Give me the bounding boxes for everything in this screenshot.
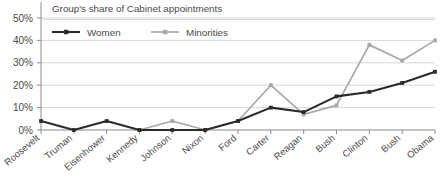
data-point-minorities bbox=[400, 59, 404, 63]
data-point-women bbox=[400, 81, 404, 85]
data-point-women bbox=[39, 119, 43, 123]
data-point-women bbox=[302, 110, 306, 114]
x-tick-label: Bush bbox=[379, 132, 403, 154]
x-tick-label: Nixon bbox=[180, 132, 206, 156]
legend-label: Women bbox=[87, 27, 121, 38]
x-tick-label: Obama bbox=[404, 132, 435, 161]
x-tick-label: Kennedy bbox=[104, 132, 140, 165]
data-point-women bbox=[203, 128, 207, 132]
data-point-women bbox=[170, 128, 174, 132]
x-tick-label: Johnson bbox=[138, 132, 173, 164]
chart-title-text: Group's share of Cabinet appointments bbox=[52, 3, 222, 14]
y-tick-label: 10% bbox=[13, 102, 33, 113]
x-tick-label: Carter bbox=[244, 132, 271, 157]
chart-legend: WomenMinorities bbox=[52, 27, 228, 38]
x-tick-label: Ford bbox=[216, 132, 238, 153]
x-tick-label: Reagan bbox=[271, 132, 304, 162]
data-point-minorities bbox=[433, 39, 437, 43]
data-point-women bbox=[269, 106, 273, 110]
data-point-women bbox=[72, 128, 76, 132]
x-tick-label: Roosevelt bbox=[2, 132, 42, 168]
line-chart: 0%10%20%30%40%50% RooseveltTrumanEisenho… bbox=[0, 0, 440, 187]
x-axis-tick-labels: RooseveltTrumanEisenhowerKennedyJohnsonN… bbox=[2, 132, 436, 173]
data-point-minorities bbox=[367, 43, 371, 47]
chart-container: 0%10%20%30%40%50% RooseveltTrumanEisenho… bbox=[0, 0, 440, 187]
y-axis-tick-labels: 0%10%20%30%40%50% bbox=[13, 13, 41, 136]
legend-item-women[interactable]: Women bbox=[52, 27, 121, 38]
x-tick-label: Bush bbox=[313, 132, 337, 154]
data-point-women bbox=[335, 95, 339, 99]
data-point-women bbox=[433, 70, 437, 74]
y-tick-label: 20% bbox=[13, 80, 33, 91]
legend-label: Minorities bbox=[186, 27, 228, 38]
data-point-women bbox=[105, 119, 109, 123]
y-tick-label: 30% bbox=[13, 57, 33, 68]
x-tick-label: Clinton bbox=[340, 132, 370, 159]
data-point-women bbox=[367, 90, 371, 94]
data-point-minorities bbox=[335, 103, 339, 107]
data-point-minorities bbox=[269, 83, 273, 87]
chart-title: Group's share of Cabinet appointments bbox=[41, 3, 435, 20]
data-point-minorities bbox=[170, 119, 174, 123]
data-point-women bbox=[138, 128, 142, 132]
data-point-women bbox=[236, 119, 240, 123]
y-tick-label: 40% bbox=[13, 35, 33, 46]
legend-item-minorities[interactable]: Minorities bbox=[151, 27, 228, 38]
y-tick-label: 50% bbox=[13, 13, 33, 24]
